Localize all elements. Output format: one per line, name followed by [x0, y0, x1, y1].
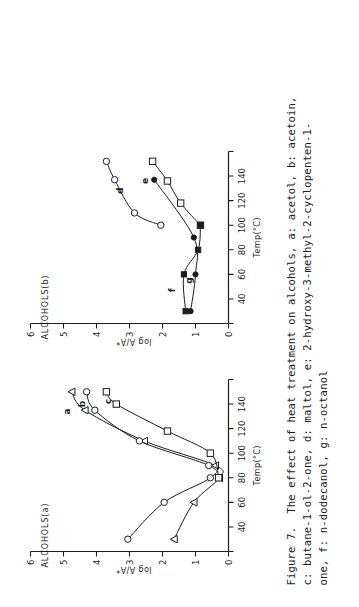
series-e — [149, 158, 203, 228]
data-point-b — [83, 388, 89, 394]
series-curve-b — [86, 391, 216, 538]
series-curve-c — [106, 391, 218, 477]
x-tick-label: 60 — [236, 496, 246, 507]
data-point-e — [149, 158, 155, 164]
data-point-g — [151, 177, 156, 182]
chart-alcohols-a: ALCOHOLS(a) 4060801001201400123456abc Te… — [14, 370, 264, 585]
data-point-b — [205, 462, 211, 468]
series-d — [103, 158, 164, 228]
data-point-d — [103, 158, 109, 164]
x-tick-label: 100 — [236, 217, 246, 233]
x-tick-label: 140 — [236, 167, 246, 183]
data-point-d — [157, 222, 163, 228]
data-point-d — [111, 176, 117, 182]
x-tick-label: 80 — [236, 472, 246, 483]
curve-label-b: b — [76, 400, 86, 407]
y-tick-label: 5 — [58, 559, 68, 564]
data-point-b — [160, 499, 166, 505]
curve-label-g: g — [184, 277, 194, 283]
x-tick-label: 100 — [236, 445, 246, 461]
curve-label-a: a — [62, 408, 72, 414]
data-point-e — [164, 177, 170, 183]
chart-alcohols-b: ALCOHOLS(b) 4060801001201400123456defg T… — [14, 142, 264, 357]
figure-page: ALCOHOLS(a) 4060801001201400123456abc Te… — [0, 0, 359, 607]
y-tick-label: 0 — [223, 331, 233, 336]
y-tick-label: 6 — [25, 331, 35, 336]
chart-a-y-axis-title: log A/A* — [115, 564, 151, 573]
figure-caption: Figure 7. The effect of heat treatment o… — [282, 15, 330, 585]
x-tick-label: 140 — [236, 395, 246, 411]
x-tick-label: 120 — [236, 420, 246, 436]
y-tick-label: 4 — [91, 559, 101, 564]
data-point-a — [190, 498, 197, 505]
series-curve-e — [152, 161, 200, 225]
chart-a-plot: 4060801001201400123456abc — [14, 370, 264, 585]
x-tick-label: 60 — [236, 268, 246, 279]
data-point-c — [113, 400, 119, 406]
series-g — [151, 177, 197, 314]
data-point-c — [164, 427, 170, 433]
series-a — [67, 388, 222, 543]
series-b — [83, 388, 216, 542]
data-point-f — [197, 222, 202, 227]
data-point-e — [177, 199, 183, 205]
caption-line-1: Figure 7. The effect of heat treatment o… — [282, 15, 298, 585]
y-tick-label: 2 — [157, 559, 167, 564]
chart-b-x-axis-title: Temp(°C) — [252, 217, 261, 257]
chart-a-x-axis-title: Temp(°C) — [252, 445, 261, 485]
caption-line-2: c: butane-1-ol-2-one, d: maltol, e: 2-hy… — [298, 15, 314, 585]
series-c — [103, 388, 222, 480]
caption-line-3: one, f: n-dodecanol, g: n-octanol — [314, 15, 330, 585]
data-point-a — [170, 535, 177, 542]
y-tick-label: 0 — [223, 559, 233, 564]
x-tick-label: 40 — [236, 521, 246, 532]
x-tick-label: 40 — [236, 293, 246, 304]
curve-label-e: e — [139, 177, 149, 183]
data-point-b — [124, 536, 130, 542]
x-tick-label: 120 — [236, 192, 246, 208]
x-tick-label: 80 — [236, 244, 246, 255]
y-tick-label: 1 — [190, 331, 200, 336]
curve-label-d: d — [114, 187, 124, 193]
data-point-b — [207, 474, 213, 480]
y-tick-label: 1 — [190, 559, 200, 564]
data-point-f — [183, 308, 188, 313]
data-point-g — [191, 234, 196, 239]
data-point-a — [67, 388, 74, 395]
curve-label-c: c — [103, 398, 113, 403]
chart-b-y-axis-title: log A/A* — [115, 336, 151, 345]
chart-b-plot: 4060801001201400123456defg — [14, 142, 264, 357]
curve-label-f: f — [167, 288, 177, 292]
y-tick-label: 6 — [25, 559, 35, 564]
data-point-g — [192, 271, 197, 276]
y-tick-label: 4 — [91, 331, 101, 336]
y-tick-label: 5 — [58, 331, 68, 336]
y-tick-label: 2 — [157, 331, 167, 336]
data-point-c — [103, 388, 109, 394]
data-point-c — [215, 474, 221, 480]
data-point-b — [136, 437, 142, 443]
data-point-c — [207, 450, 213, 456]
data-point-f — [181, 271, 186, 276]
